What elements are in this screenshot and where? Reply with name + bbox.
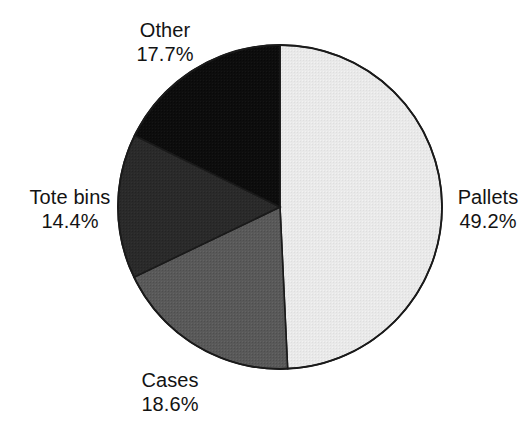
pie-label-pallets-name: Pallets bbox=[458, 185, 519, 209]
pie-slices-group bbox=[118, 45, 442, 369]
pie-label-other-name: Other bbox=[136, 18, 193, 42]
pie-label-cases: Cases 18.6% bbox=[141, 368, 198, 417]
pie-label-cases-value: 18.6% bbox=[141, 392, 198, 416]
pie-label-other-value: 17.7% bbox=[136, 42, 193, 66]
pie-label-tote-bins-value: 14.4% bbox=[30, 209, 111, 233]
pie-label-tote-bins: Tote bins 14.4% bbox=[30, 185, 111, 234]
pie-label-other: Other 17.7% bbox=[136, 18, 193, 67]
pie-slice-pallets bbox=[280, 45, 442, 369]
pie-label-pallets: Pallets 49.2% bbox=[458, 185, 519, 234]
pie-chart-figure: Other 17.7% Tote bins 14.4% Cases 18.6% … bbox=[0, 0, 529, 428]
pie-label-tote-bins-name: Tote bins bbox=[30, 185, 111, 209]
pie-label-pallets-value: 49.2% bbox=[458, 209, 519, 233]
pie-label-cases-name: Cases bbox=[141, 368, 198, 392]
